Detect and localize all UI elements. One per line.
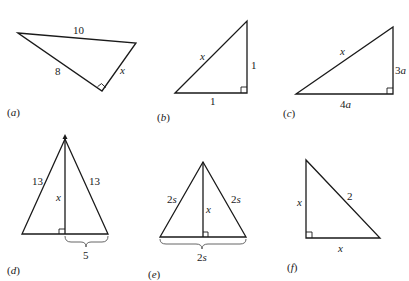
triangle-b	[175, 21, 247, 93]
figure-d: 13 13 x 5 (d)	[7, 134, 108, 277]
figure-c: x 3a 4a (c)	[283, 27, 407, 120]
caption-c: (c)	[283, 107, 296, 120]
right-angle-marker-b	[241, 87, 247, 93]
label-d-altitude: x	[55, 191, 61, 203]
caption-a: (a)	[7, 106, 20, 119]
triangle-a	[18, 33, 136, 91]
right-angle-marker-a	[98, 84, 106, 88]
brace-e	[160, 239, 246, 249]
apex-mark-d	[63, 134, 68, 139]
triangle-f	[306, 160, 380, 238]
label-a-leg-x: x	[119, 64, 125, 76]
label-e-altitude: x	[205, 203, 211, 215]
label-c-hypotenuse: x	[339, 45, 345, 57]
figure-e: 2s 2s x 2s (e)	[148, 162, 246, 281]
label-d-left-side: 13	[32, 175, 44, 187]
right-angle-marker-c	[387, 88, 393, 94]
label-a-hypotenuse: 10	[73, 24, 85, 36]
label-a-leg-8: 8	[55, 65, 61, 77]
label-b-horizontal-leg: 1	[210, 95, 216, 107]
label-c-horizontal-leg: 4a	[340, 98, 352, 110]
triangle-figures: 10 8 x (a) x 1 1 (b) x 3a 4a (c) 13 13 x…	[0, 0, 409, 281]
label-f-vertical-leg: x	[296, 196, 302, 208]
brace-d	[65, 236, 108, 247]
label-c-vertical-leg: 3a	[395, 64, 407, 76]
caption-f: (f)	[287, 261, 298, 274]
label-b-vertical-leg: 1	[251, 59, 257, 71]
caption-b: (b)	[157, 111, 170, 124]
right-angle-marker-e	[203, 232, 208, 237]
label-f-hypotenuse: 2	[347, 190, 353, 202]
caption-e: (e)	[148, 268, 161, 281]
figure-f: x 2 x (f)	[287, 160, 380, 274]
right-angle-marker-f	[306, 232, 312, 238]
label-e-left-side: 2s	[167, 193, 177, 205]
triangle-c	[296, 27, 393, 94]
label-b-hypotenuse: x	[199, 50, 205, 62]
figure-b: x 1 1 (b)	[157, 21, 257, 124]
caption-d: (d)	[7, 264, 20, 277]
label-d-right-side: 13	[89, 175, 101, 187]
figure-a: 10 8 x (a)	[7, 24, 136, 119]
label-e-right-side: 2s	[231, 193, 241, 205]
label-f-horizontal-leg: x	[337, 242, 343, 254]
label-e-base: 2s	[197, 251, 207, 263]
label-d-half-base: 5	[83, 249, 89, 261]
right-angle-marker-d	[59, 229, 65, 234]
